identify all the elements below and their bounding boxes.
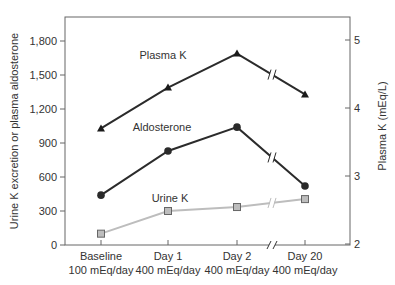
x-tick-label: Day 20: [288, 250, 323, 262]
y-tick-label: 1,800: [29, 35, 57, 47]
x-tick-sublabel: 400 mEq/day: [205, 264, 270, 276]
series-label: Urine K: [152, 192, 189, 204]
y-tick-label: 1,200: [29, 103, 57, 115]
y2-tick-label: 2: [354, 238, 360, 250]
y-tick-label: 1,500: [29, 69, 57, 81]
x-tick-label: Day 1: [154, 250, 183, 262]
series-labels: Plasma KAldosteroneUrine K: [133, 49, 192, 204]
y-axis-title: Urine K excretion or plasma aldosterone: [8, 33, 20, 229]
series-label: Aldosterone: [133, 121, 192, 133]
square-marker: [165, 208, 172, 215]
circle-marker: [301, 182, 309, 190]
y2-tick-label: 3: [354, 170, 360, 182]
circle-marker: [164, 147, 172, 155]
series-label: Plasma K: [139, 49, 187, 61]
chart: 03006009001,2001,5001,8002345Baseline100…: [0, 0, 395, 285]
x-tick-sublabel: 400 mEq/day: [136, 264, 201, 276]
plot-border: [65, 17, 350, 245]
y2-tick-label: 4: [354, 102, 360, 114]
y-tick-label: 900: [39, 137, 57, 149]
series-line-plasma-k: [101, 54, 305, 129]
x-tick-label: Day 2: [223, 250, 252, 262]
y-tick-label: 600: [39, 171, 57, 183]
square-marker: [98, 230, 105, 237]
series: [97, 50, 309, 238]
circle-marker: [97, 191, 105, 199]
y2-tick-label: 5: [354, 34, 360, 46]
plot-frame: [65, 17, 350, 249]
x-tick-sublabel: 400 mEq/day: [273, 264, 338, 276]
series-line-aldosterone: [101, 127, 305, 195]
circle-marker: [233, 123, 241, 131]
x-tick-sublabel: 100 mEq/day: [69, 264, 134, 276]
y-tick-label: 300: [39, 205, 57, 217]
triangle-marker: [301, 90, 309, 97]
y-tick-label: 0: [51, 239, 57, 251]
y2-axis-title: Plasma K (mEq/L): [376, 81, 388, 170]
square-marker: [234, 204, 241, 211]
square-marker: [302, 196, 309, 203]
triangle-marker: [233, 50, 241, 57]
x-tick-label: Baseline: [80, 250, 122, 262]
triangle-marker: [97, 124, 105, 131]
